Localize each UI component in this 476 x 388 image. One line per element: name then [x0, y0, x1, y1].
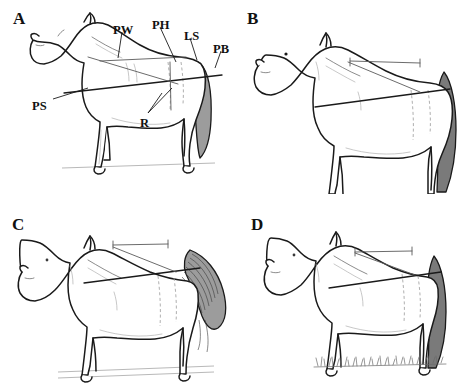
hoof-hind — [179, 374, 190, 381]
panel-letter-b: B — [247, 10, 258, 27]
panel-b: B — [238, 0, 476, 194]
label-ps: PS — [32, 100, 47, 113]
foreleg-far — [340, 157, 343, 194]
muzzle-detail — [31, 34, 39, 40]
hindleg-far — [184, 119, 185, 156]
panel-d: D — [238, 194, 476, 388]
tail-wisp-2 — [198, 320, 200, 350]
hindleg-far — [183, 328, 184, 366]
ground-line — [58, 366, 214, 372]
ear-left — [84, 236, 91, 250]
panel-letter-c: C — [12, 216, 24, 233]
measure-topline — [113, 244, 168, 245]
horse-body-outline — [264, 238, 438, 369]
label-r: R — [140, 117, 149, 130]
panel-a: A — [0, 0, 238, 194]
label-pb: PB — [213, 43, 229, 56]
eye-dot — [284, 52, 287, 55]
label-pw: PW — [113, 24, 133, 37]
ear-left — [330, 232, 337, 246]
label-ph: PH — [152, 19, 169, 32]
ear-left — [320, 33, 327, 47]
hoof-front — [326, 369, 337, 376]
panel-b-drawing — [238, 0, 476, 194]
hoof-hind — [419, 368, 430, 375]
horse-body-outline — [254, 47, 452, 194]
panel-letter-a: A — [13, 10, 25, 27]
hindleg-far — [431, 147, 432, 190]
ground-line — [62, 163, 215, 168]
horse-body-outline — [30, 23, 205, 167]
measure-topline — [355, 251, 412, 252]
panel-c-drawing — [0, 194, 238, 388]
ear-left — [84, 13, 91, 24]
panel-c: C — [0, 194, 238, 388]
horse-measurement-figure: A — [0, 0, 476, 388]
panel-d-drawing — [238, 194, 476, 388]
eye-dot — [293, 254, 296, 257]
eye-dot — [46, 259, 49, 262]
foreleg-far — [93, 338, 96, 371]
hoof-hind — [183, 166, 194, 173]
panel-letter-d: D — [251, 216, 263, 233]
hoof-front — [94, 167, 105, 174]
horse-body-outline — [18, 240, 198, 375]
hoof-front — [81, 375, 92, 382]
label-ls: LS — [184, 30, 199, 43]
hindleg-far — [423, 324, 424, 364]
eye-line — [58, 30, 64, 36]
